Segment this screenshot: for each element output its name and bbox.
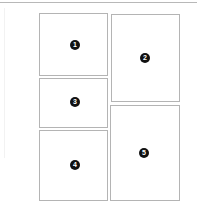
top-divider xyxy=(0,2,197,3)
panel-3: 3 xyxy=(39,78,108,128)
panel-5: 5 xyxy=(110,105,180,201)
number-badge-4: 4 xyxy=(70,160,80,170)
panel-1: 1 xyxy=(39,13,108,76)
panel-4: 4 xyxy=(39,130,108,201)
number-badge-3: 3 xyxy=(70,97,80,107)
panel-2: 2 xyxy=(111,14,180,102)
left-faint-rule xyxy=(4,8,5,158)
number-badge-5: 5 xyxy=(139,148,149,158)
number-badge-1: 1 xyxy=(70,40,80,50)
number-badge-2: 2 xyxy=(140,53,150,63)
